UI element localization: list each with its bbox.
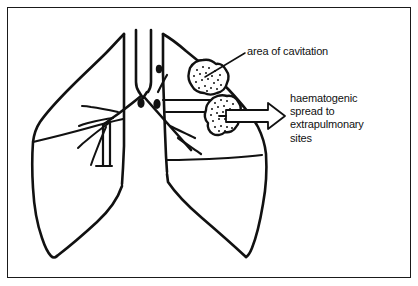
label-area-of-cavitation: area of cavitation [247,45,328,58]
trachea-right-wall [148,30,151,92]
haematogenic-line-4: sites [290,132,312,144]
lymph-node-upper-right [156,65,162,73]
lymph-node-lower-right [153,99,160,109]
left-lung-base [57,186,122,256]
right-lung-base [167,174,246,257]
haematogenic-line-2: spread to [290,105,335,117]
right-lung-fissure [167,155,262,160]
label-haematogenic-spread: haematogenic spread to extrapulmonary si… [290,92,364,145]
upper-cavitation-lesion [189,60,229,95]
upper-lesion-outline [189,60,229,95]
right-lung-medial-border [163,34,167,172]
haematogenic-line-1: haematogenic [290,92,357,104]
haematogenic-line-3: extrapulmonary [290,118,364,130]
lymph-node-lower-left [137,98,144,108]
right-bronchus-branch-4 [178,138,201,154]
left-bronchus-branch-1 [82,106,118,112]
trachea-left-wall [136,30,139,92]
figure-root: area of cavitation haematogenic spread t… [0,0,418,286]
